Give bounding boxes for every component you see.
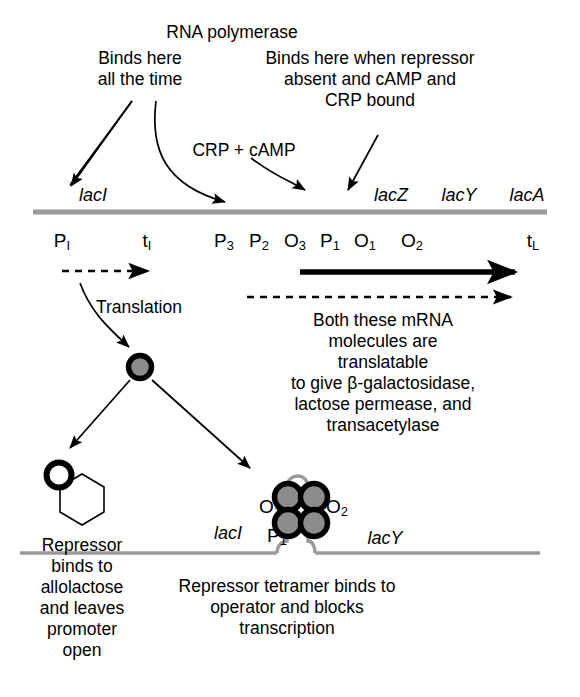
site-base: P [249, 230, 262, 251]
allolactose-note-line-1: Repressor [40, 535, 125, 556]
site-base: P [320, 230, 333, 251]
site-sub: 3 [227, 238, 234, 253]
allolactose-note-line-5: promoter [40, 619, 125, 640]
right-note-line-1: Binds here when repressor [265, 48, 474, 69]
bottom-gene-label-laci: lacI [214, 523, 242, 544]
site-sub: 2 [341, 504, 348, 519]
translation-label: Translation [96, 297, 182, 317]
site-marker-p2: P2 [249, 230, 269, 253]
site-sub: L [532, 238, 539, 253]
tetramer-note-line-2: operator and blocks [179, 597, 396, 618]
site-base: O [326, 496, 341, 517]
site-sub: I [67, 238, 71, 253]
right-note: Binds here when repressor absent and cAM… [265, 48, 474, 111]
bottom-operator-o1: O1 [259, 496, 281, 519]
crp-camp-label: CRP + cAMP [192, 140, 295, 160]
site-sub: 1 [280, 533, 287, 548]
mrna-note-line-2: molecules are translatable [285, 331, 482, 373]
rna-polymerase-label: RNA polymerase [166, 22, 297, 42]
site-sub: 1 [369, 238, 376, 253]
site-marker-ti: tI [143, 230, 152, 253]
site-base: O [354, 230, 369, 251]
repressor-ring-open [47, 463, 72, 488]
site-sub: I [148, 238, 152, 253]
site-sub: 2 [262, 238, 269, 253]
site-sub: 2 [416, 238, 423, 253]
site-sub: 3 [299, 238, 306, 253]
site-marker-o3: O3 [284, 230, 306, 253]
allolactose-note-line-2: binds to [40, 556, 125, 577]
site-marker-p3: P3 [214, 230, 234, 253]
lac-operon-diagram: RNA polymerase Binds here all the time B… [0, 0, 580, 697]
tetramer-note-line-1: Repressor tetramer binds to [179, 576, 396, 597]
bottom-promoter-p1: P1 [267, 525, 287, 548]
allolactose-note-line-6: open [40, 640, 125, 661]
gene-label-laci: lacI [79, 185, 107, 206]
tetramer-subunit-top-right [301, 484, 328, 511]
repressor-monomer-shape [129, 356, 152, 379]
arrow-to-tetramer [152, 380, 250, 468]
arrow-crp-camp [251, 158, 305, 190]
left-note-line-2: all the time [98, 69, 183, 90]
tetramer-subunit-bottom-right [301, 510, 328, 537]
site-base: P [214, 230, 227, 251]
tetramer-note: Repressor tetramer binds to operator and… [179, 576, 396, 639]
arrow-rna-polymerase-binds [348, 135, 378, 190]
arrow-to-laci [71, 101, 132, 186]
left-note: Binds here all the time [98, 48, 183, 90]
allolactose-note-line-4: and leaves [40, 598, 125, 619]
site-sub: 1 [274, 504, 281, 519]
site-sub: 1 [333, 238, 340, 253]
site-base: O [259, 496, 274, 517]
site-marker-tl: tL [527, 230, 539, 253]
mrna-note: Both these mRNA molecules are translatab… [285, 310, 482, 436]
site-marker-pi: PI [54, 230, 70, 253]
mrna-note-line-4: lactose permease, and [285, 394, 482, 415]
right-note-line-3: CRP bound [265, 90, 474, 111]
site-base: P [267, 525, 280, 546]
site-marker-p1: P1 [320, 230, 340, 253]
arrow-to-allolactose-complex [70, 380, 130, 448]
bottom-gene-label-lacy: lacY [367, 528, 402, 549]
site-marker-o2: O2 [401, 230, 423, 253]
site-base: O [401, 230, 416, 251]
site-marker-o1: O1 [354, 230, 376, 253]
gene-label-lacy: lacY [441, 185, 476, 206]
site-base: O [284, 230, 299, 251]
left-note-line-1: Binds here [98, 48, 183, 69]
mrna-note-line-5: transacetylase [285, 415, 482, 436]
allolactose-note: Repressor binds to allolactose and leave… [40, 535, 125, 661]
right-note-line-2: absent and cAMP and [265, 69, 474, 90]
mrna-note-line-3: to give β-galactosidase, [285, 373, 482, 394]
mrna-note-line-1: Both these mRNA [285, 310, 482, 331]
allolactose-note-line-3: allolactose [40, 577, 125, 598]
tetramer-note-line-3: transcription [179, 618, 396, 639]
site-base: P [54, 230, 67, 251]
gene-label-lacz: lacZ [374, 185, 408, 206]
bottom-operator-o2: O2 [326, 496, 348, 519]
gene-label-laca: lacA [509, 185, 544, 206]
